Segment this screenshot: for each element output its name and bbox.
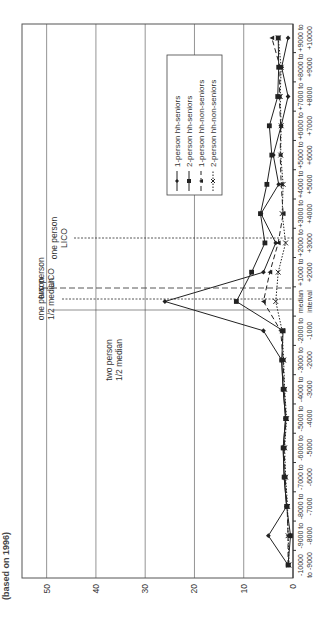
- x-tick-label: +6000: [306, 145, 313, 165]
- square-marker-icon: [258, 211, 263, 216]
- category-axis: -10000to -9000-9000 to-8000-8000 to-7000…: [293, 24, 313, 578]
- line-chart: (based on 1996) -10000to -9000-9000 to-8…: [0, 0, 332, 632]
- x-tick-label: -4000: [306, 410, 313, 428]
- x-tick-label: -5000 to: [297, 406, 304, 432]
- x-marker-icon: [273, 299, 278, 304]
- square-marker-icon: [269, 153, 274, 158]
- x-tick-label: +9000 to: [297, 24, 304, 52]
- square-marker-icon: [234, 299, 239, 304]
- diamond-marker-icon: [261, 328, 266, 333]
- x-tick-label: -3000: [306, 380, 313, 398]
- x-tick-label: -7000: [306, 497, 313, 515]
- reference-annotation: 1/2 median: [114, 339, 124, 381]
- x-tick-label: -6000: [306, 468, 313, 486]
- square-marker-icon: [267, 123, 272, 128]
- x-tick-label: -10000: [297, 554, 304, 576]
- x-tick-label: median: [297, 290, 304, 313]
- x-tick-label: -8000: [306, 527, 313, 545]
- x-tick-label: +5000 to: [297, 141, 304, 169]
- y-tick-label: 30: [140, 584, 150, 594]
- legend: 1-person hh-seniors2-person hh-seniors1-…: [167, 55, 222, 195]
- x-tick-label: +8000 to: [297, 53, 304, 81]
- x-tick-label: +4000: [306, 204, 313, 224]
- x-tick-label: +3000: [306, 233, 313, 253]
- x-tick-label: -6000 to: [297, 435, 304, 461]
- y-tick-label: 10: [239, 584, 249, 594]
- x-tick-label: +3000 to: [297, 200, 304, 228]
- x-tick-label: -2000 to: [297, 318, 304, 344]
- reference-lines: [42, 238, 293, 310]
- x-tick-label: interval: [306, 290, 313, 313]
- reference-annotation: two person: [104, 339, 114, 381]
- x-tick-label: +8000: [306, 87, 313, 107]
- x-tick-label: -3000 to: [297, 347, 304, 373]
- square-marker-icon: [264, 182, 269, 187]
- triangle-marker-icon: [269, 36, 274, 41]
- x-tick-label: -8000 to: [297, 493, 304, 519]
- diamond-marker-icon: [286, 94, 291, 99]
- series-line: [276, 38, 289, 565]
- series-2-person-hh-non-seniors: [273, 36, 291, 568]
- x-tick-label: +2000: [306, 262, 313, 282]
- reference-annotation: two person: [36, 257, 46, 299]
- x-tick-label: +9000: [306, 57, 313, 77]
- x-tick-label: +4000 to: [297, 171, 304, 199]
- y-tick-label: 40: [91, 584, 101, 594]
- x-tick-label: -1000: [306, 322, 313, 340]
- diamond-marker-icon: [261, 270, 266, 275]
- y-tick-label: 50: [42, 584, 52, 594]
- x-tick-label: +6000 to: [297, 112, 304, 140]
- triangle-marker-icon: [261, 299, 266, 304]
- reference-annotation: one person: [49, 216, 59, 259]
- x-tick-label: +7000 to: [297, 83, 304, 111]
- x-tick-label: +1000 to: [297, 258, 304, 286]
- square-marker-icon: [187, 179, 191, 183]
- x-tick-label: -2000: [306, 351, 313, 369]
- y-tick-label: 0: [288, 584, 298, 589]
- x-tick-label: -7000 to: [297, 464, 304, 490]
- x-tick-label: -4000 to: [297, 376, 304, 402]
- y-tick-label: 20: [189, 584, 199, 594]
- reference-annotation: LICO: [46, 268, 56, 288]
- legend-label: 1-person hh-non-seniors: [197, 80, 206, 167]
- x-tick-label: -9000 to: [297, 523, 304, 549]
- x-tick-label: -5000: [306, 439, 313, 457]
- legend-label: 1-person hh-seniors: [173, 96, 182, 167]
- plot-frame: [22, 24, 293, 578]
- diamond-marker-icon: [162, 299, 167, 304]
- x-tick-label: +5000: [306, 174, 313, 194]
- x-tick-label: to -9000: [306, 552, 313, 578]
- legend-label: 2-person hh-non-seniors: [209, 80, 218, 167]
- square-marker-icon: [263, 241, 268, 246]
- reference-annotation: LICO: [59, 228, 69, 248]
- square-marker-icon: [249, 270, 254, 275]
- x-tick-label: +7000: [306, 116, 313, 136]
- plot-area: -10000to -9000-9000 to-8000-8000 to-7000…: [22, 24, 313, 593]
- chart-title-fragment: (based on 1996): [1, 532, 11, 600]
- legend-label: 2-person hh-seniors: [185, 96, 194, 167]
- x-tick-label: +2000 to: [297, 229, 304, 257]
- diamond-marker-icon: [286, 36, 291, 41]
- x-tick-label: +10000: [306, 26, 313, 50]
